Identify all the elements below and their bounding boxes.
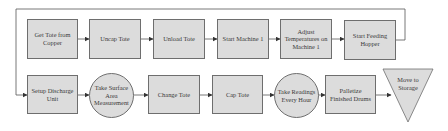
node-label: Take Surface Area Measurement [92,84,131,107]
node-take-surface-area-measurement: Take Surface Area Measurement [89,73,134,118]
node-label: Get Tote from Copper [30,31,75,46]
node-label: Palletize Finished Drums [328,87,373,102]
node-change-tote: Change Tote [148,75,200,114]
node-label: Unload Tote [163,35,195,43]
process-flowchart: Get Tote from Copper Uncap Tote Unload T… [0,0,448,131]
node-label: Cap Tote [226,91,249,99]
node-start-feeding-hopper: Start Feeding Hopper [344,20,396,60]
node-label: Change Tote [158,91,190,99]
node-label: Uncap Tote [100,35,129,43]
node-move-to-storage: Move to Storage [393,76,423,91]
node-get-tote-from-copper: Get Tote from Copper [27,19,78,59]
node-cap-tote: Cap Tote [212,75,263,114]
node-label: Adjust Temperatures on Machine 1 [283,28,329,51]
node-take-readings-every-hour: Take Readings Every Hour [274,73,319,118]
node-label: Move to Storage [397,76,418,91]
node-uncap-tote: Uncap Tote [89,19,141,59]
node-start-machine-1: Start Machine 1 [217,19,269,59]
node-label: Take Readings Every Hour [277,88,316,103]
node-label: Start Feeding Hopper [347,32,393,47]
node-adjust-temperatures: Adjust Temperatures on Machine 1 [280,19,332,59]
node-label: Setup Discharge Unit [30,87,75,102]
node-setup-discharge-unit: Setup Discharge Unit [27,75,78,114]
node-unload-tote: Unload Tote [153,19,205,59]
node-palletize-finished-drums: Palletize Finished Drums [325,75,376,114]
node-label: Start Machine 1 [223,35,264,43]
